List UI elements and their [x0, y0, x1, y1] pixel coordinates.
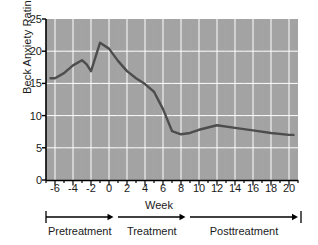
x-tick-label: 6: [160, 183, 166, 194]
x-tick-label: 12: [211, 183, 223, 194]
x-tick-label: 0: [106, 183, 112, 194]
phase-label-treatment: Treatment: [127, 225, 177, 237]
x-tick-label: 8: [178, 183, 184, 194]
x-tick-label: 20: [283, 183, 295, 194]
x-tick-label: -2: [86, 183, 96, 194]
x-tick-label: 14: [229, 183, 241, 194]
x-axis-tick-labels: -6-4-202468101214161820: [0, 183, 318, 197]
phase-label-posttreatment: Posttreatment: [210, 225, 278, 237]
x-axis-title: Week: [0, 199, 318, 211]
x-tick-label: 18: [265, 183, 277, 194]
x-tick-label: 10: [193, 183, 205, 194]
x-tick-label: 16: [247, 183, 259, 194]
chart-figure: Beck Anxiety Rating 25 20 15 10 5 0 -6-4…: [0, 0, 318, 245]
phase-arrows: [46, 211, 301, 223]
x-tick-label: 4: [142, 183, 148, 194]
x-tick-label: -6: [50, 183, 60, 194]
x-tick-label: 2: [124, 183, 130, 194]
x-tick-label: -4: [68, 183, 78, 194]
phase-label-pretreatment: Pretreatment: [48, 225, 112, 237]
